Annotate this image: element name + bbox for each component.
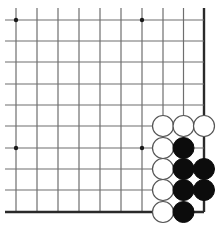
white-stone[interactable] [173,116,194,137]
black-stone[interactable] [173,202,194,223]
star-point [140,18,144,22]
black-stone[interactable] [194,159,215,180]
black-stone[interactable] [173,180,194,201]
white-stone[interactable] [153,159,174,180]
star-point [140,146,144,150]
white-stone[interactable] [194,116,215,137]
white-stone[interactable] [153,180,174,201]
black-stone[interactable] [173,138,194,159]
black-stone[interactable] [194,180,215,201]
white-stone[interactable] [153,202,174,223]
white-stone[interactable] [153,116,174,137]
go-board[interactable] [0,0,223,228]
black-stone[interactable] [173,159,194,180]
star-point [14,18,18,22]
star-point [14,146,18,150]
white-stone[interactable] [153,138,174,159]
